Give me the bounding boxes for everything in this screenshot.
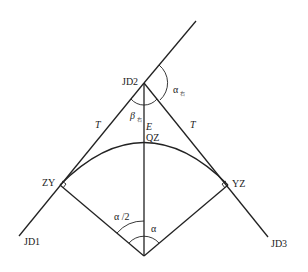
label-alpha-right-sub: 右 <box>180 90 185 97</box>
label-external: E <box>145 121 152 132</box>
label-yz: YZ <box>232 178 245 189</box>
half-alpha-arc <box>117 221 144 233</box>
label-jd2: JD2 <box>122 76 138 87</box>
label-alpha: α <box>151 223 157 234</box>
label-tangent-left: T <box>95 119 102 130</box>
label-beta-right-sub: 右 <box>137 116 142 123</box>
radius-right <box>144 185 228 256</box>
tangent-extension-line <box>144 21 196 83</box>
label-jd1: JD1 <box>24 236 40 247</box>
curve-diagram: JD2 JD1 JD3 ZY YZ QZ T T E α 右 β 右 α /2 … <box>0 0 308 272</box>
label-qz: QZ <box>146 132 159 143</box>
label-half-alpha: α /2 <box>114 211 130 222</box>
label-jd3: JD3 <box>271 238 287 249</box>
radius-left <box>60 185 144 256</box>
alpha-right-arc <box>159 65 168 100</box>
label-alpha-right: α <box>173 84 179 95</box>
label-zy: ZY <box>42 177 55 188</box>
label-tangent-right: T <box>190 119 197 130</box>
label-beta-right: β <box>129 110 135 121</box>
tangent-line-right <box>144 83 268 237</box>
